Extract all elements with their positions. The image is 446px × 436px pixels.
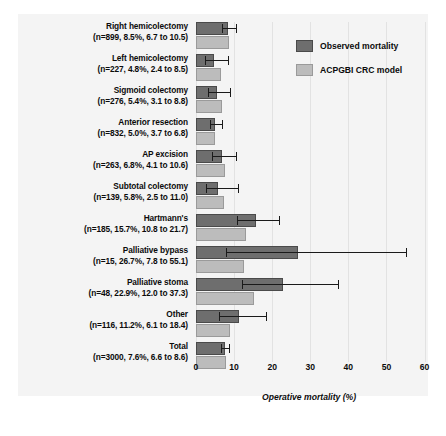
row-label-category: Sigmoid colectomy [10,85,188,96]
legend-swatch [296,64,313,76]
row-bars [196,118,436,148]
row-label-category: Subtotal colectomy [10,181,188,192]
x-tick-label: 10 [229,362,239,372]
error-cap-high [230,88,231,97]
error-cap-high [228,56,229,65]
legend-swatch [296,40,313,52]
bar-model [196,196,224,209]
row-label-stats: (n=263, 6.8%, 4.1 to 10.6) [10,160,188,171]
bar-row: Other(n=116, 11.2%, 6.1 to 18.4) [0,310,446,340]
chart-figure: Right hemicolectomy(n=899, 8.5%, 6.7 to … [0,0,446,436]
error-cap-high [236,152,237,161]
bar-row: Anterior resection(n=832, 5.0%, 3.7 to 6… [0,118,446,148]
bar-row: Hartmann's(n=185, 15.7%, 10.8 to 21.7) [0,214,446,244]
row-label-stats: (n=139, 5.8%, 2.5 to 11.0) [10,192,188,203]
error-cap-high [238,184,239,193]
error-bar [205,60,228,61]
error-cap-low [212,152,213,161]
row-label: Left hemicolectomy(n=227, 4.8%, 2.4 to 8… [10,53,188,74]
row-bars [196,86,436,116]
error-cap-low [205,56,206,65]
chart-legend: Observed mortalityACPGBI CRC model [296,40,402,88]
error-bar [222,28,236,29]
bar-row: AP excision(n=263, 6.8%, 4.1 to 10.6) [0,150,446,180]
row-bars [196,246,436,276]
row-label: Sigmoid colectomy(n=276, 5.4%, 3.1 to 8.… [10,85,188,106]
row-label-stats: (n=832, 5.0%, 3.7 to 6.8) [10,128,188,139]
error-cap-low [242,280,243,289]
bar-model [196,100,222,113]
row-bars [196,278,436,308]
row-label-stats: (n=116, 11.2%, 6.1 to 18.4) [10,320,188,331]
row-bars [196,182,436,212]
error-bar [206,188,238,189]
bar-model [196,132,215,145]
legend-item: Observed mortality [296,40,402,52]
error-cap-high [222,120,223,129]
error-cap-low [208,88,209,97]
x-tick-label: 20 [267,362,277,372]
row-label-category: Hartmann's [10,213,188,224]
error-cap-high [279,216,280,225]
row-label-category: Left hemicolectomy [10,53,188,64]
bar-row: Subtotal colectomy(n=139, 5.8%, 2.5 to 1… [0,182,446,212]
row-label-stats: (n=48, 22.9%, 12.0 to 37.3) [10,288,188,299]
error-bar [208,92,230,93]
bar-model [196,292,254,305]
error-bar [210,124,222,125]
row-label: AP excision(n=263, 6.8%, 4.1 to 10.6) [10,149,188,170]
row-label-stats: (n=276, 5.4%, 3.1 to 8.8) [10,96,188,107]
row-label-category: Palliative stoma [10,277,188,288]
row-label-category: Anterior resection [10,117,188,128]
bar-row: Sigmoid colectomy(n=276, 5.4%, 3.1 to 8.… [0,86,446,116]
x-tick-label: 0 [194,362,199,372]
x-tick-label: 60 [420,362,430,372]
bar-model [196,324,230,337]
x-tick-label: 30 [306,362,316,372]
row-label-category: Palliative bypass [10,245,188,256]
bar-model [196,36,229,49]
row-label: Right hemicolectomy(n=899, 8.5%, 6.7 to … [10,21,188,42]
error-cap-low [237,216,238,225]
error-cap-low [226,248,227,257]
row-label-stats: (n=3000, 7.6%, 6.6 to 8.6) [10,352,188,363]
x-axis-title: Operative mortality (%) [262,392,356,402]
row-label: Total(n=3000, 7.6%, 6.6 to 8.6) [10,341,188,362]
x-tick-label: 40 [344,362,354,372]
error-cap-high [338,280,339,289]
error-cap-low [221,344,222,353]
row-label-stats: (n=899, 8.5%, 6.7 to 10.5) [10,32,188,43]
error-cap-low [206,184,207,193]
legend-label: ACPGBI CRC model [320,65,402,75]
error-cap-high [266,312,267,321]
row-bars [196,214,436,244]
row-label-category: Other [10,309,188,320]
row-label-category: Right hemicolectomy [10,21,188,32]
bar-model [196,164,225,177]
x-tick-label: 50 [382,362,392,372]
error-cap-high [236,24,237,33]
row-label-stats: (n=15, 26.7%, 7.8 to 55.1) [10,256,188,267]
error-cap-low [219,312,220,321]
row-label: Hartmann's(n=185, 15.7%, 10.8 to 21.7) [10,213,188,234]
error-bar [242,284,338,285]
error-cap-low [222,24,223,33]
row-label-category: Total [10,341,188,352]
error-cap-high [229,344,230,353]
error-bar [226,252,406,253]
error-bar [212,156,237,157]
error-bar [237,220,279,221]
legend-item: ACPGBI CRC model [296,64,402,76]
bar-model [196,68,221,81]
legend-label: Observed mortality [320,41,398,51]
x-axis: 0102030405060 [196,362,446,378]
error-bar [219,316,266,317]
bar-row: Palliative stoma(n=48, 22.9%, 12.0 to 37… [0,278,446,308]
row-label: Subtotal colectomy(n=139, 5.8%, 2.5 to 1… [10,181,188,202]
row-label: Anterior resection(n=832, 5.0%, 3.7 to 6… [10,117,188,138]
error-bar [221,348,229,349]
row-label: Other(n=116, 11.2%, 6.1 to 18.4) [10,309,188,330]
bar-model [196,260,244,273]
row-bars [196,150,436,180]
bar-model [196,228,246,241]
